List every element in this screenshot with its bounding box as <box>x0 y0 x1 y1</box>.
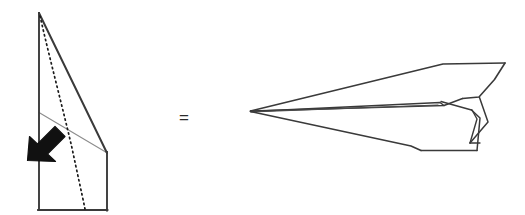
left-figure-group <box>28 13 108 211</box>
diagram-canvas: = <box>0 0 525 215</box>
right-figure-group <box>250 63 505 151</box>
paper-body-fill <box>39 13 107 210</box>
origami-diagram <box>0 0 525 215</box>
equals-sign: = <box>172 104 196 130</box>
airplane-upper-wing-fill <box>250 63 505 111</box>
